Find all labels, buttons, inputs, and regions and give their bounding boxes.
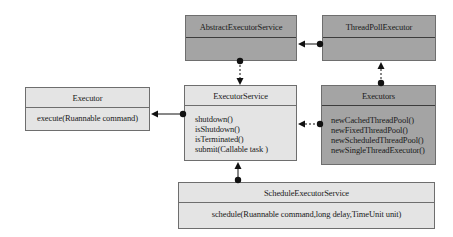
method: newScheduledThreadPool() xyxy=(331,135,435,145)
method: newFixedThreadPool() xyxy=(331,125,435,135)
relation-schedule-to-executor-service xyxy=(235,162,242,183)
method: submit(Callable task ) xyxy=(195,144,296,154)
class-thread-pool-executor: ThreadPollExecutor xyxy=(322,15,436,61)
class-executor: Executor execute(Ruannable command) xyxy=(25,87,150,131)
method: execute(Ruannable command) xyxy=(26,113,149,123)
method: isShutdown() xyxy=(195,124,296,134)
method: isTerminated() xyxy=(195,134,296,144)
class-name: ThreadPollExecutor xyxy=(323,16,435,38)
class-schedule-executor-service: ScheduleExecutorService schedule(Ruannab… xyxy=(178,182,435,229)
relation-executor-service-to-executor xyxy=(151,111,186,118)
relation-executors-to-threadpool xyxy=(378,62,385,86)
class-name: ExecutorService xyxy=(185,86,296,106)
class-name: AbstractExecutorService xyxy=(186,16,296,38)
class-methods: execute(Ruannable command) xyxy=(26,108,149,123)
relation-threadpool-to-abstract xyxy=(298,41,323,48)
class-name: Executors xyxy=(322,86,435,106)
class-methods: newCachedThreadPool() newFixedThreadPool… xyxy=(322,106,435,155)
method: newCachedThreadPool() xyxy=(331,115,435,125)
class-name: ScheduleExecutorService xyxy=(179,183,434,203)
class-name: Executor xyxy=(26,88,149,108)
class-methods: shutdown() isShutdown() isTerminated() s… xyxy=(185,106,296,154)
method: newSingleThreadExecutor() xyxy=(331,145,435,155)
class-executors: Executors newCachedThreadPool() newFixed… xyxy=(321,85,436,165)
method: schedule(Ruannable command,long delay,Ti… xyxy=(179,209,434,219)
class-methods: schedule(Ruannable command,long delay,Ti… xyxy=(179,203,434,219)
relation-executors-to-executor-service xyxy=(298,121,323,128)
class-executor-service: ExecutorService shutdown() isShutdown() … xyxy=(184,85,297,161)
class-abstract-executor-service: AbstractExecutorService xyxy=(185,15,297,61)
method: shutdown() xyxy=(195,114,296,124)
relation-abstract-to-executor-service xyxy=(237,58,244,85)
